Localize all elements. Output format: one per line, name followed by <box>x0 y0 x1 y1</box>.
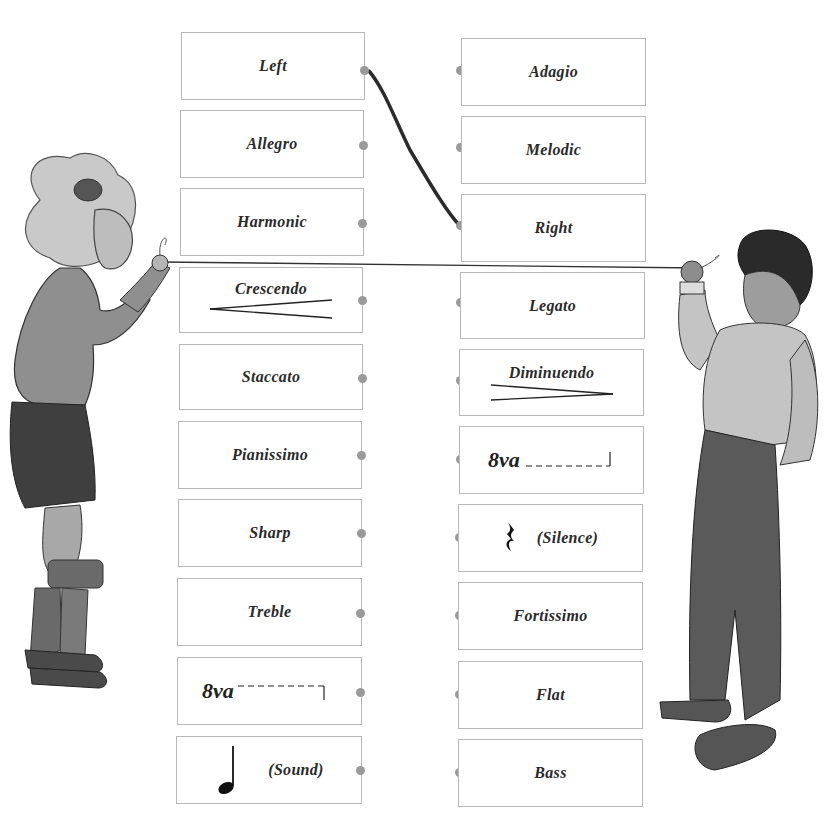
card-label: Legato <box>529 297 576 315</box>
illustration-layer <box>0 0 837 829</box>
left-dot-allegro[interactable] <box>359 141 368 150</box>
card-label: Crescendo <box>235 280 307 298</box>
connector-left-right <box>369 71 460 226</box>
left-dot-crescendo[interactable] <box>358 296 367 305</box>
card-label: Diminuendo <box>509 364 595 382</box>
left-card-left[interactable]: Left <box>181 32 365 100</box>
left-dot-harmonic[interactable] <box>358 219 367 228</box>
left-card-sound[interactable]: (Sound) <box>176 736 362 804</box>
card-label: Right <box>535 219 573 237</box>
left-card-staccato[interactable]: Staccato <box>179 344 363 410</box>
right-card-adagio[interactable]: Adagio <box>461 38 646 106</box>
card-label: Staccato <box>242 368 300 386</box>
octave-bracket-icon <box>520 448 615 472</box>
right-card-bass[interactable]: Bass <box>458 739 643 807</box>
left-card-pianissimo[interactable]: Pianissimo <box>178 421 362 489</box>
left-card-8va[interactable]: 8va <box>177 657 362 725</box>
left-card-harmonic[interactable]: Harmonic <box>180 188 364 256</box>
diminuendo-hairpin-icon <box>487 382 617 402</box>
card-label: Adagio <box>529 63 578 81</box>
right-card-8va[interactable]: 8va <box>459 426 644 494</box>
crescendo-hairpin-icon <box>206 298 336 320</box>
card-label: Flat <box>536 686 565 704</box>
card-label: Left <box>259 57 287 75</box>
card-label: Fortissimo <box>513 607 587 625</box>
card-label: 8va <box>488 447 520 473</box>
left-dot-treble[interactable] <box>356 609 365 618</box>
right-card-flat[interactable]: Flat <box>458 661 643 729</box>
card-label: Harmonic <box>237 213 307 231</box>
quarter-note-icon <box>214 742 240 798</box>
card-label: 8va <box>202 678 234 704</box>
card-label: Melodic <box>526 141 581 159</box>
girl-illustration <box>10 153 170 688</box>
right-card-right[interactable]: Right <box>461 194 646 262</box>
left-dot-staccato[interactable] <box>358 374 367 383</box>
left-dot-left[interactable] <box>360 66 369 75</box>
right-card-silence[interactable]: (Silence) <box>458 504 643 572</box>
boy-illustration <box>660 230 818 770</box>
right-card-fortissimo[interactable]: Fortissimo <box>458 582 643 650</box>
left-dot-sharp[interactable] <box>357 529 366 538</box>
left-dot-pianissimo[interactable] <box>357 451 366 460</box>
octave-bracket-icon <box>234 679 326 703</box>
card-label: (Sound) <box>268 761 323 779</box>
left-dot-sound[interactable] <box>356 766 365 775</box>
left-card-treble[interactable]: Treble <box>177 578 362 646</box>
left-card-sharp[interactable]: Sharp <box>178 499 362 567</box>
card-label: Treble <box>248 603 292 621</box>
left-card-allegro[interactable]: Allegro <box>180 110 364 178</box>
quarter-rest-icon <box>503 520 519 556</box>
card-label: Allegro <box>247 135 298 153</box>
right-card-legato[interactable]: Legato <box>460 272 645 339</box>
left-card-crescendo[interactable]: Crescendo <box>179 267 363 333</box>
right-card-diminuendo[interactable]: Diminuendo <box>459 349 644 416</box>
card-label: (Silence) <box>537 529 598 547</box>
right-card-melodic[interactable]: Melodic <box>461 116 646 184</box>
card-label: Bass <box>534 764 566 782</box>
card-label: Sharp <box>249 524 291 542</box>
card-label: Pianissimo <box>232 446 308 464</box>
left-dot-8va[interactable] <box>356 688 365 697</box>
